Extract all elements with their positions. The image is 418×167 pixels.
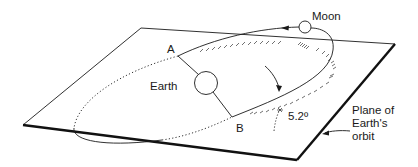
moon-orbit-below-plane — [74, 56, 232, 140]
earth-label: Earth — [150, 80, 178, 93]
moon-label: Moon — [312, 10, 341, 23]
plane-label-line3: orbit — [352, 130, 374, 143]
diagram-canvas: Moon A Earth B 5.2º Plane of Earth's orb… — [0, 0, 418, 167]
earth-circle — [195, 72, 218, 95]
orbit-shadow-hatching — [200, 41, 336, 114]
point-a-label: A — [167, 43, 175, 56]
plane-label-line1: Plane of — [352, 104, 394, 117]
plane-label-pointer-arrow — [322, 131, 350, 136]
angle-arc-indicator — [274, 108, 283, 131]
moon-circle — [299, 21, 311, 33]
point-b-label: B — [236, 122, 244, 135]
inclination-pointer-arrow — [265, 66, 282, 92]
plane-label-line2: Earth's — [352, 117, 387, 130]
angle-label: 5.2º — [288, 110, 308, 123]
